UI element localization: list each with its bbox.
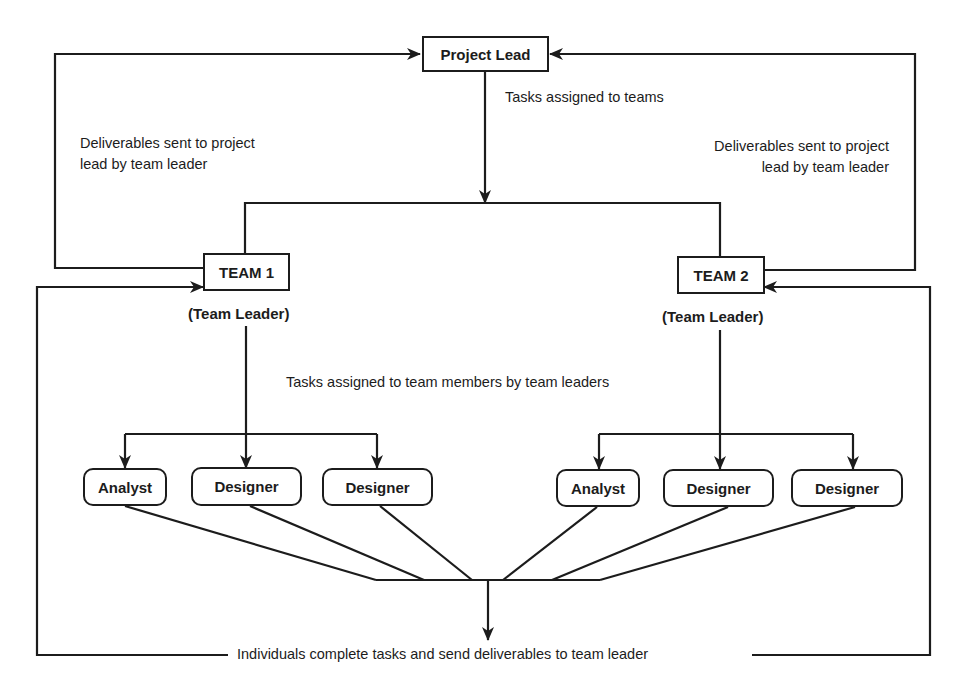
team1-designer-node: Designer [322,468,433,506]
connector-lines [0,0,974,690]
team2-node: TEAM 2 [677,256,765,294]
individuals-complete-label: Individuals complete tasks and send deli… [233,644,652,665]
team2-designer-node: Designer [663,469,774,507]
deliverables-left-label-line1: Deliverables sent to project [80,133,255,154]
deliverables-right-label-line1: Deliverables sent to project [678,136,889,157]
tasks-to-members-label: Tasks assigned to team members by team l… [286,372,609,393]
team1-analyst-node: Analyst [83,468,167,506]
team1-node: TEAM 1 [203,253,290,291]
team2-designer-node: Designer [791,469,903,507]
deliverables-left-label-line2: lead by team leader [80,154,207,175]
teams-bracket [245,203,720,256]
team2-analyst-node: Analyst [556,469,640,507]
team2-role-label: (Team Leader) [662,306,763,327]
tasks-to-teams-label: Tasks assigned to teams [505,87,664,108]
project-lead-node: Project Lead [422,36,549,72]
team1-designer-node: Designer [191,467,302,506]
deliverables-right-label-line2: lead by team leader [678,157,889,178]
team1-role-label: (Team Leader) [188,303,289,324]
